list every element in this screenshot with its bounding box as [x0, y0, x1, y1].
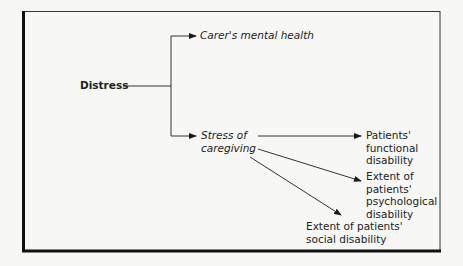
- node-psychological-line4: disability: [366, 208, 437, 221]
- node-social-line2: social disability: [306, 233, 403, 246]
- node-psychological-disability: Extent of patients' psychological disabi…: [366, 170, 437, 220]
- node-social-disability: Extent of patients' social disability: [306, 220, 403, 245]
- node-stress-line2: caregiving: [201, 142, 256, 155]
- node-social-line1: Extent of patients': [306, 220, 403, 233]
- node-stress-of-caregiving: Stress of caregiving: [201, 129, 256, 154]
- node-carers-mental-health: Carer's mental health: [200, 29, 314, 42]
- arrow-to-social: [250, 157, 341, 215]
- node-psychological-line3: psychological: [366, 195, 437, 208]
- node-stress-line1: Stress of: [201, 129, 256, 142]
- node-psychological-line1: Extent of: [366, 170, 437, 183]
- node-functional-line1: Patients': [366, 129, 418, 142]
- node-functional-line3: disability: [366, 154, 418, 167]
- node-distress: Distress: [80, 79, 128, 92]
- node-psychological-line2: patients': [366, 183, 437, 196]
- node-functional-line2: functional: [366, 142, 418, 155]
- node-functional-disability: Patients' functional disability: [366, 129, 418, 167]
- arrow-to-psychological: [258, 149, 361, 181]
